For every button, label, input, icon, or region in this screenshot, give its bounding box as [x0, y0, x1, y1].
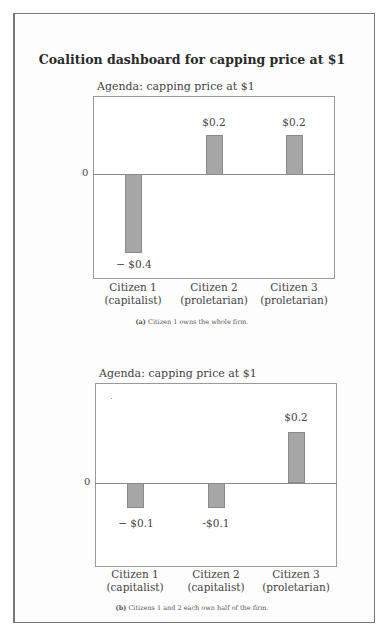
caption-tag: (b)	[116, 604, 127, 612]
category-name: Citizen 3	[256, 568, 336, 581]
category-name: Citizen 1	[93, 281, 173, 294]
category-role: (capitalist)	[176, 581, 256, 594]
panel-a-y-tick-zero: 0	[82, 167, 88, 178]
caption-text: Citizens 1 and 2 each own half of the fi…	[128, 604, 268, 612]
panel-a-bar-citizen-1	[125, 174, 142, 253]
panel-a-category-1: Citizen 1 (capitalist)	[93, 281, 173, 307]
panel-b-agenda: Agenda: capping price at $1	[99, 367, 257, 380]
category-name: Citizen 3	[254, 281, 334, 294]
category-name: Citizen 2	[174, 281, 254, 294]
panel-a-category-3: Citizen 3 (proletarian)	[254, 281, 334, 307]
panel-a-bar-citizen-3	[286, 135, 303, 175]
category-role: (proletarian)	[256, 581, 336, 594]
caption-text: Citizen 1 owns the whole firm.	[148, 318, 249, 326]
category-name: Citizen 2	[176, 568, 256, 581]
panel-a-value-label-1: − $0.4	[104, 258, 164, 270]
panel-b-bar-citizen-1	[127, 483, 144, 508]
panel-b-value-label-3: $0.2	[266, 411, 326, 423]
panel-b-category-2: Citizen 2 (capitalist)	[176, 568, 256, 594]
panel-a-agenda: Agenda: capping price at $1	[97, 80, 255, 93]
panel-a-value-label-3: $0.2	[264, 116, 324, 128]
panel-b-bar-citizen-2	[208, 483, 225, 508]
panel-b-value-label-2: -$0.1	[186, 517, 246, 529]
caption-tag: (a)	[135, 318, 145, 326]
figure-title: Coalition dashboard for capping price at…	[0, 52, 384, 67]
panel-a-value-label-2: $0.2	[184, 116, 244, 128]
panel-a-caption: (a) Citizen 1 owns the whole firm.	[0, 318, 384, 326]
category-role: (capitalist)	[93, 294, 173, 307]
panel-b-category-1: Citizen 1 (capitalist)	[95, 568, 175, 594]
panel-b-y-tick-zero: 0	[84, 476, 90, 487]
panel-a-category-2: Citizen 2 (proletarian)	[174, 281, 254, 307]
panel-b-bar-citizen-3	[288, 432, 305, 483]
category-role: (proletarian)	[254, 294, 334, 307]
stray-mark	[111, 398, 112, 399]
category-role: (capitalist)	[95, 581, 175, 594]
panel-b-category-3: Citizen 3 (proletarian)	[256, 568, 336, 594]
category-role: (proletarian)	[174, 294, 254, 307]
panel-a-bar-citizen-2	[206, 135, 223, 175]
panel-b-caption: (b) Citizens 1 and 2 each own half of th…	[0, 604, 384, 612]
category-name: Citizen 1	[95, 568, 175, 581]
panel-b-value-label-1: − $0.1	[106, 517, 166, 529]
